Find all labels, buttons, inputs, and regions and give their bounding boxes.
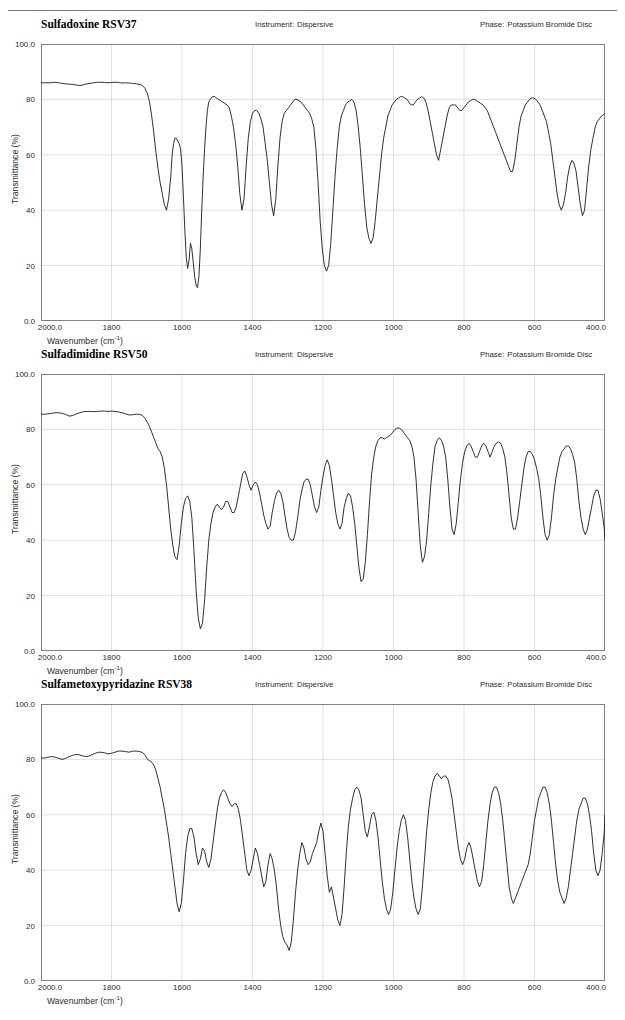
x-tick-label: 400.0 <box>586 653 606 662</box>
x-axis-tick-labels: 2000.018001600140012001000800600400.0 <box>41 983 605 997</box>
x-tick-label: 400.0 <box>586 323 606 332</box>
y-tick-label: 80 <box>26 95 35 104</box>
x-tick-label: 800 <box>457 983 470 992</box>
instrument-meta: Instrument:Dispersive <box>255 20 333 29</box>
y-tick-label: 20 <box>26 591 35 600</box>
spectrum-svg <box>41 374 605 651</box>
x-tick-label: 2000.0 <box>38 653 62 662</box>
phase-meta: Phase:Potassium Bromide Disc <box>480 350 592 359</box>
plot-area <box>41 44 605 321</box>
phase-value: Potassium Bromide Disc <box>507 680 592 689</box>
x-tick-label: 400.0 <box>586 983 606 992</box>
x-tick-label: 1800 <box>103 983 121 992</box>
plot-area <box>41 704 605 981</box>
spectrum-block-1: Sulfadimidine RSV50 Instrument:Dispersiv… <box>0 344 625 674</box>
x-tick-label: 1200 <box>314 323 332 332</box>
y-tick-label: 100.0 <box>15 40 35 49</box>
spectra-page: Sulfadoxine RSV37 Instrument:Dispersive … <box>0 0 625 1020</box>
x-tick-label: 2000.0 <box>38 983 62 992</box>
y-tick-label: 40 <box>26 536 35 545</box>
x-tick-label: 1400 <box>244 983 262 992</box>
y-tick-label: 100.0 <box>15 370 35 379</box>
x-axis-tick-labels: 2000.018001600140012001000800600400.0 <box>41 323 605 337</box>
phase-meta: Phase:Potassium Bromide Disc <box>480 20 592 29</box>
x-tick-label: 1000 <box>385 983 403 992</box>
phase-meta: Phase:Potassium Bromide Disc <box>480 680 592 689</box>
y-tick-label: 0.0 <box>24 317 35 326</box>
y-tick-label: 20 <box>26 921 35 930</box>
x-tick-label: 1000 <box>385 653 403 662</box>
x-axis-title-text: Wavenumber (cm <box>47 996 115 1006</box>
spectrum-svg <box>41 704 605 981</box>
y-axis-title: Transmittance (%) <box>10 94 20 244</box>
x-tick-label: 1400 <box>244 323 262 332</box>
spectrum-block-0: Sulfadoxine RSV37 Instrument:Dispersive … <box>0 14 625 344</box>
y-tick-label: 0.0 <box>24 647 35 656</box>
x-tick-label: 1200 <box>314 983 332 992</box>
instrument-meta: Instrument:Dispersive <box>255 350 333 359</box>
plot-area <box>41 374 605 651</box>
y-tick-label: 80 <box>26 755 35 764</box>
spectrum-block-2: Sulfametoxypyridazine RSV38 Instrument:D… <box>0 674 625 1004</box>
y-tick-label: 100.0 <box>15 700 35 709</box>
x-tick-label: 1000 <box>385 323 403 332</box>
instrument-value: Dispersive <box>297 350 333 359</box>
x-tick-label: 800 <box>457 653 470 662</box>
y-tick-label: 60 <box>26 810 35 819</box>
x-tick-label: 800 <box>457 323 470 332</box>
y-tick-label: 60 <box>26 480 35 489</box>
instrument-label: Instrument: <box>255 350 294 359</box>
y-tick-label: 40 <box>26 206 35 215</box>
x-tick-label: 1400 <box>244 653 262 662</box>
spectrum-title: Sulfadimidine RSV50 <box>41 348 147 360</box>
x-tick-label: 1800 <box>103 653 121 662</box>
y-tick-label: 20 <box>26 261 35 270</box>
y-axis-title: Transmittance (%) <box>10 754 20 904</box>
x-tick-label: 600 <box>528 653 541 662</box>
x-tick-label: 600 <box>528 323 541 332</box>
phase-label: Phase: <box>480 350 504 359</box>
x-tick-label: 1800 <box>103 323 121 332</box>
instrument-label: Instrument: <box>255 680 294 689</box>
instrument-label: Instrument: <box>255 20 294 29</box>
spectrum-svg <box>41 44 605 321</box>
x-axis-title-close: ) <box>120 996 123 1006</box>
y-tick-label: 0.0 <box>24 977 35 986</box>
y-tick-label: 60 <box>26 150 35 159</box>
phase-value: Potassium Bromide Disc <box>507 350 592 359</box>
phase-value: Potassium Bromide Disc <box>507 20 592 29</box>
x-tick-label: 600 <box>528 983 541 992</box>
phase-label: Phase: <box>480 680 504 689</box>
y-tick-label: 80 <box>26 425 35 434</box>
instrument-meta: Instrument:Dispersive <box>255 680 333 689</box>
x-axis-title: Wavenumber (cm-1) <box>47 994 123 1006</box>
phase-label: Phase: <box>480 20 504 29</box>
x-tick-label: 1600 <box>173 983 191 992</box>
x-axis-tick-labels: 2000.018001600140012001000800600400.0 <box>41 653 605 667</box>
x-tick-label: 2000.0 <box>38 323 62 332</box>
y-tick-label: 40 <box>26 866 35 875</box>
x-tick-label: 1200 <box>314 653 332 662</box>
instrument-value: Dispersive <box>297 20 333 29</box>
x-tick-label: 1600 <box>173 323 191 332</box>
page-top-rule <box>8 10 617 11</box>
y-axis-title: Transmittance (%) <box>10 424 20 574</box>
spectrum-title: Sulfadoxine RSV37 <box>41 18 137 30</box>
x-tick-label: 1600 <box>173 653 191 662</box>
instrument-value: Dispersive <box>297 680 333 689</box>
spectrum-title: Sulfametoxypyridazine RSV38 <box>41 678 192 690</box>
